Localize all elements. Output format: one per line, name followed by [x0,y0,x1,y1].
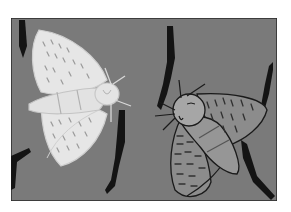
bark-illustration [11,18,277,201]
moths-on-bark-image [11,18,277,201]
dark-moth-head [173,94,205,126]
